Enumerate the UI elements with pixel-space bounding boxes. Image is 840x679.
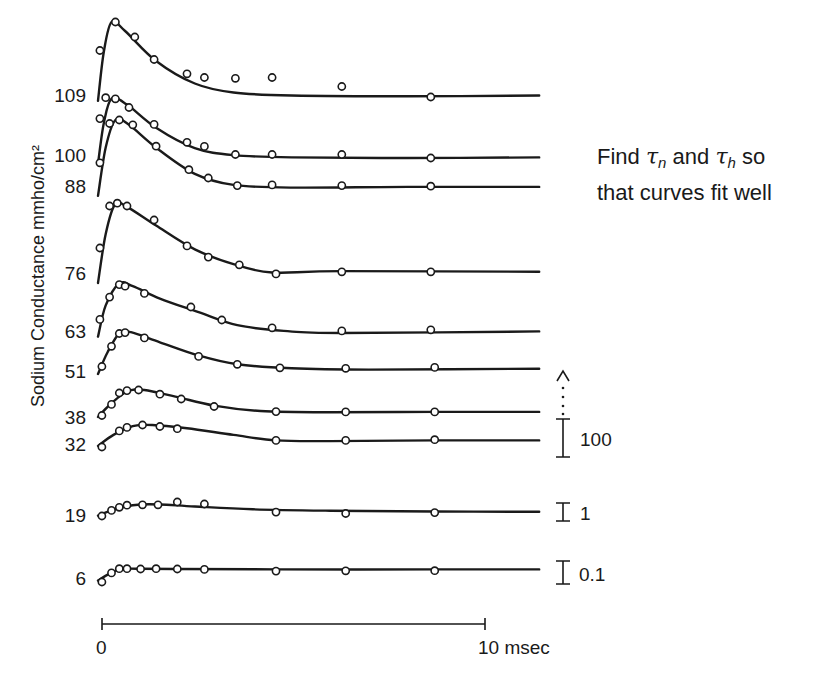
- scale-bar-label-0-1: 0.1: [579, 564, 605, 585]
- data-point: [338, 151, 345, 158]
- trace-label-100: 100: [54, 145, 86, 166]
- data-point: [201, 500, 208, 507]
- trace-labels: 109100887663513832196: [54, 85, 86, 589]
- scale-bar-label-100: 100: [580, 429, 612, 450]
- data-point: [154, 501, 161, 508]
- scale-bar-dot: [562, 387, 565, 390]
- traces: [96, 18, 539, 585]
- data-point: [272, 270, 279, 277]
- data-point: [272, 408, 279, 415]
- trace-88: [96, 116, 539, 195]
- data-point: [96, 244, 103, 251]
- data-point: [102, 94, 109, 101]
- trace-label-32: 32: [65, 434, 86, 455]
- data-point: [427, 154, 434, 161]
- scale-bar-dot: [562, 396, 565, 399]
- fit-curve-19: [98, 504, 539, 515]
- trace-51: [98, 329, 539, 374]
- data-point: [427, 326, 434, 333]
- data-point: [116, 389, 123, 396]
- data-point: [123, 387, 130, 394]
- data-point: [98, 443, 105, 450]
- data-point: [141, 290, 148, 297]
- trace-label-51: 51: [65, 361, 86, 382]
- trace-32: [98, 421, 539, 450]
- data-point: [338, 268, 345, 275]
- time-scale-bar: 0 10 msec: [96, 618, 550, 658]
- data-point: [112, 18, 119, 25]
- fit-curve-51: [98, 331, 539, 374]
- data-point: [234, 182, 241, 189]
- data-point: [153, 565, 160, 572]
- annotation-text: so: [736, 144, 765, 169]
- data-point: [174, 565, 181, 572]
- data-point: [431, 408, 438, 415]
- data-point: [137, 565, 144, 572]
- trace-19: [98, 498, 539, 519]
- data-point: [123, 565, 130, 572]
- data-point: [135, 386, 142, 393]
- data-point: [108, 569, 115, 576]
- scale-bar-1: 1: [556, 503, 591, 524]
- data-point: [112, 95, 119, 102]
- data-point: [201, 566, 208, 573]
- data-point: [201, 74, 208, 81]
- scale-bars: 100 1 0.1: [556, 371, 612, 585]
- data-point: [195, 353, 202, 360]
- data-point: [122, 283, 129, 290]
- data-point: [156, 423, 163, 430]
- time-end-label: 10 msec: [478, 637, 550, 658]
- data-point: [123, 424, 130, 431]
- data-point: [98, 363, 105, 370]
- data-point: [96, 115, 103, 122]
- data-point: [187, 303, 194, 310]
- data-point: [211, 403, 218, 410]
- data-point: [269, 181, 276, 188]
- data-point: [269, 324, 276, 331]
- data-point: [342, 567, 349, 574]
- data-point: [342, 437, 349, 444]
- annotation-line-1: Find τn and τh so: [597, 142, 772, 178]
- data-point: [153, 143, 160, 150]
- data-point: [338, 327, 345, 334]
- scale-bar-0-1: 0.1: [556, 561, 605, 585]
- data-point: [98, 512, 105, 519]
- trace-label-6: 6: [75, 568, 86, 589]
- y-axis-title: Sodium Conductance mmho/cm²: [28, 145, 48, 407]
- data-point: [98, 412, 105, 419]
- data-point: [98, 578, 105, 585]
- trace-label-76: 76: [65, 263, 86, 284]
- data-point: [183, 139, 190, 146]
- sodium-conductance-chart: Sodium Conductance mmho/cm² 109100887663…: [0, 0, 840, 679]
- tau-h-subscript: h: [728, 154, 736, 171]
- data-point: [96, 159, 103, 166]
- data-point: [185, 166, 192, 173]
- data-point: [151, 121, 158, 128]
- data-point: [338, 83, 345, 90]
- data-point: [431, 509, 438, 516]
- data-point: [427, 268, 434, 275]
- data-point: [116, 565, 123, 572]
- data-point: [96, 47, 103, 54]
- data-point: [234, 361, 241, 368]
- data-point: [272, 437, 279, 444]
- data-point: [108, 507, 115, 514]
- data-point: [427, 183, 434, 190]
- trace-label-109: 109: [54, 85, 86, 106]
- data-point: [236, 261, 243, 268]
- data-point: [116, 504, 123, 511]
- data-point: [183, 70, 190, 77]
- fit-curve-109: [98, 21, 539, 101]
- annotation-line-2: that curves fit well: [597, 178, 772, 208]
- data-point: [131, 33, 138, 40]
- tau-n-symbol: τ: [646, 144, 658, 169]
- data-point: [106, 120, 113, 127]
- data-point: [106, 202, 113, 209]
- data-point: [431, 436, 438, 443]
- trace-38: [98, 386, 539, 419]
- trace-label-88: 88: [65, 176, 86, 197]
- data-point: [123, 502, 130, 509]
- scale-bar-dot: [562, 405, 565, 408]
- data-point: [116, 427, 123, 434]
- data-point: [96, 316, 103, 323]
